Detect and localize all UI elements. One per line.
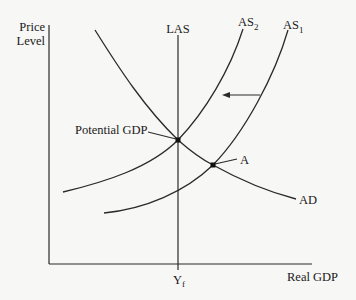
potential-gdp-label: Potential GDP xyxy=(75,123,148,137)
yf-label: Yf xyxy=(173,273,185,289)
arrow-head-icon xyxy=(222,92,230,98)
potential-gdp-point xyxy=(176,138,181,143)
ad-as-diagram: Price Level LAS AS2 AS1 Potential GDP A … xyxy=(0,0,356,300)
point-a xyxy=(211,163,216,168)
las-label: LAS xyxy=(166,22,190,36)
y-axis-label-line2: Level xyxy=(17,34,46,48)
as1-curve xyxy=(104,30,288,213)
as1-label: AS1 xyxy=(283,18,303,35)
as2-curve xyxy=(63,29,243,192)
point-a-label: A xyxy=(240,153,249,167)
as2-label: AS2 xyxy=(238,15,258,32)
ad-label: AD xyxy=(299,193,317,207)
y-axis-label-line1: Price xyxy=(19,20,45,34)
x-axis-label: Real GDP xyxy=(287,270,338,284)
